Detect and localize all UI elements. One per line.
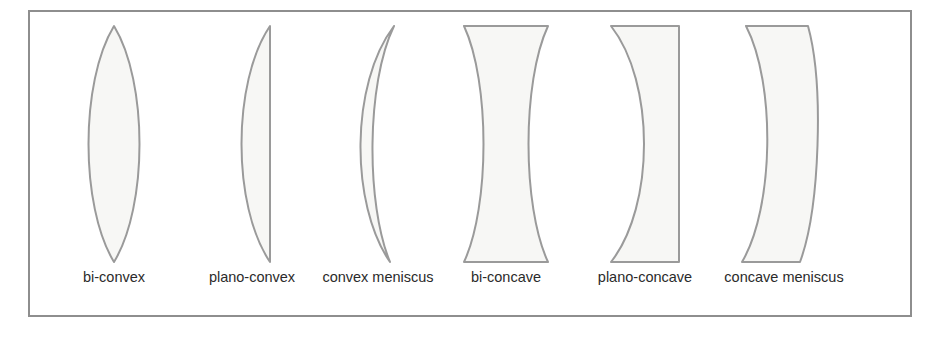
lens-item-plano-concave: plano-concave: [575, 20, 715, 310]
lens-item-concave-meniscus: concave meniscus: [712, 20, 852, 310]
lens-caption-bi-convex: bi-convex: [44, 268, 184, 286]
plano-convex-lens-path: [242, 26, 271, 262]
lens-item-plano-convex: plano-convex: [182, 20, 322, 310]
concave-meniscus-lens-path: [742, 26, 818, 262]
bi-convex-lens-path: [89, 26, 140, 262]
lens-types-figure: bi-convex plano-convex convex meniscus: [0, 0, 938, 344]
lens-row: bi-convex plano-convex convex meniscus: [30, 12, 914, 319]
plano-concave-lens-path: [611, 26, 679, 262]
plano-concave-lens-drawing: [575, 20, 715, 268]
lens-caption-bi-concave: bi-concave: [436, 268, 576, 286]
convex-meniscus-lens-drawing: [308, 20, 448, 268]
lens-item-convex-meniscus: convex meniscus: [308, 20, 448, 310]
lens-item-bi-convex: bi-convex: [44, 20, 184, 310]
plano-convex-lens-drawing: [182, 20, 322, 268]
concave-meniscus-lens-drawing: [712, 20, 852, 268]
convex-meniscus-lens-path: [360, 26, 394, 262]
bi-convex-lens-drawing: [44, 20, 184, 268]
bi-concave-lens-drawing: [436, 20, 576, 268]
bi-concave-lens-path: [464, 26, 548, 262]
lens-item-bi-concave: bi-concave: [436, 20, 576, 310]
lens-caption-concave-meniscus: concave meniscus: [694, 268, 874, 286]
lens-panel-frame: bi-convex plano-convex convex meniscus: [28, 10, 912, 317]
